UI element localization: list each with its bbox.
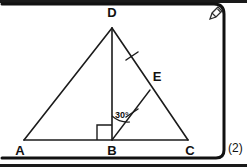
geometry-diagram: D A B C E 30° (2)	[0, 0, 247, 167]
vertex-label-E: E	[153, 69, 162, 84]
segment-AD	[24, 28, 112, 140]
question-number: (2)	[228, 141, 243, 155]
frame-border	[2, 4, 224, 158]
segment-DC	[112, 28, 188, 140]
vertex-label-A: A	[15, 143, 25, 158]
screenshot-root: D A B C E 30° (2)	[0, 0, 247, 167]
right-angle-marker-B	[97, 125, 112, 140]
vertex-label-D: D	[107, 5, 116, 20]
vertex-label-B: B	[107, 143, 116, 158]
vertex-label-C: C	[185, 143, 195, 158]
pencil-icon[interactable]	[210, 7, 222, 19]
angle-label-30: 30°	[115, 110, 129, 120]
